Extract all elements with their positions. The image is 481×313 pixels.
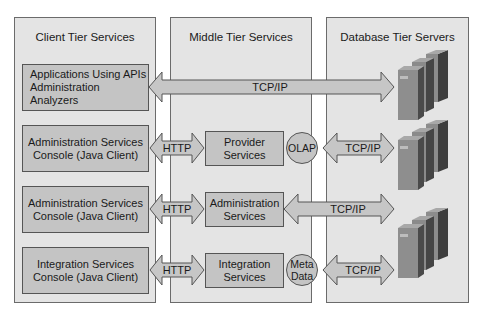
tcpip-label-row4: TCP/IP [338, 264, 388, 276]
middle-box-administration-services: Administration Services [205, 192, 284, 227]
client-box-applications: Applications Using APIs Administration A… [22, 64, 149, 111]
server-stack-icon-2 [398, 120, 448, 190]
http-label-2: HTTP [157, 203, 197, 215]
client-box-admin-console-2: Administration Services Console (Java Cl… [22, 186, 149, 233]
metadata-circle: Meta Data [286, 254, 318, 286]
tcpip-label-row3: TCP/IP [318, 203, 378, 215]
http-label-3: HTTP [157, 264, 197, 276]
server-stack-icon-1 [398, 50, 448, 120]
tcpip-label-row1: TCP/IP [240, 81, 300, 93]
client-box-integration-console: Integration Services Console (Java Clien… [22, 247, 149, 294]
http-label-1: HTTP [157, 142, 197, 154]
server-stack-icon-3 [398, 208, 448, 278]
client-box-admin-console-1: Administration Services Console (Java Cl… [22, 125, 149, 172]
olap-circle: OLAP [286, 132, 318, 164]
tcpip-label-row2: TCP/IP [338, 142, 388, 154]
middle-box-integration-services: Integration Services [205, 253, 284, 288]
middle-box-provider-services: Provider Services [205, 131, 284, 166]
